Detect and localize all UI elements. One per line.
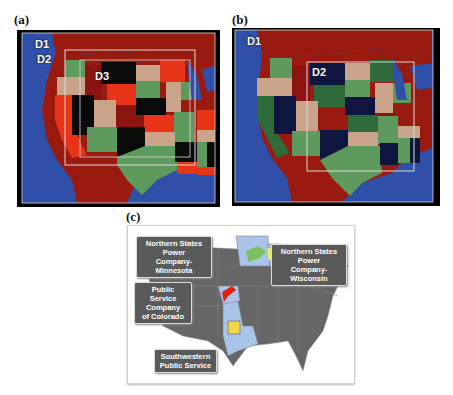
callout-sps-line1: Southwestern [158,352,213,361]
panel-a-map: D1 D2 D3 [17,30,220,207]
callout-psco-line1: Public Service [138,285,188,303]
callout-nsp-wisconsin-line2: Company- Wisconsin [275,265,343,283]
callout-nsp-minnesota-line1: Northern States Power [140,239,208,257]
callout-psco-line3: of Colorado [138,312,188,321]
callout-sps-line2: Public Service [158,361,213,370]
domain-label-d2: D2 [37,53,51,65]
map-b-graphic [232,28,440,206]
domain-label-d1: D1 [247,35,261,47]
callout-psco: Public Service Company of Colorado [134,282,192,324]
callout-psco-line2: Company [138,303,188,312]
domain-label-d1: D1 [35,38,49,50]
panel-a-label: (a) [14,12,29,28]
domain-label-d2: D2 [312,66,326,78]
panel-c-service-map: Northern States Power Company- Minnesota… [127,225,355,384]
callout-sps: Southwestern Public Service [154,349,217,373]
callout-nsp-wisconsin: Northern States Power Company- Wisconsin [271,244,347,286]
panel-b-label: (b) [232,12,248,28]
callout-nsp-minnesota: Northern States Power Company- Minnesota [136,236,212,278]
panel-c-label: (c) [126,209,140,225]
panel-b-map: D1 D2 [232,28,440,206]
callout-nsp-minnesota-line2: Company- Minnesota [140,257,208,275]
callout-nsp-wisconsin-line1: Northern States Power [275,247,343,265]
domain-label-d3: D3 [95,70,109,82]
